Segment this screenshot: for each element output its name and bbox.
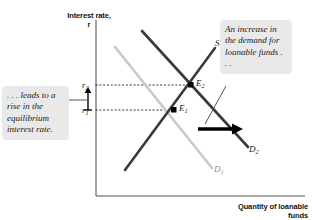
right-callout-box: An increase in the demand for loanable f… <box>220 20 292 74</box>
equilibrium-e2-label: E2 <box>196 78 205 89</box>
supply-curve-label: S <box>215 38 220 48</box>
loanable-funds-diagram: Interest rate, r Quantity of loanable fu… <box>0 0 312 220</box>
y-axis-label: Interest rate, r <box>67 11 111 29</box>
demand-curve-d1 <box>115 47 212 168</box>
x-axis-label: Quantity of loanable funds <box>228 202 308 220</box>
equilibrium-e1-label: E1 <box>179 103 188 114</box>
rate-r1-label: r1 <box>82 105 89 116</box>
equilibrium-point-e1 <box>171 107 177 113</box>
demand-curve-d2-label: D2 <box>249 144 259 155</box>
supply-curve-s <box>125 48 215 170</box>
equilibrium-point-e2 <box>188 82 194 88</box>
left-callout-box: . . . leads to a rise in the equilibrium… <box>2 86 69 140</box>
rate-r2-label: r2 <box>82 80 89 91</box>
demand-curve-d1-label: D1 <box>214 164 224 175</box>
